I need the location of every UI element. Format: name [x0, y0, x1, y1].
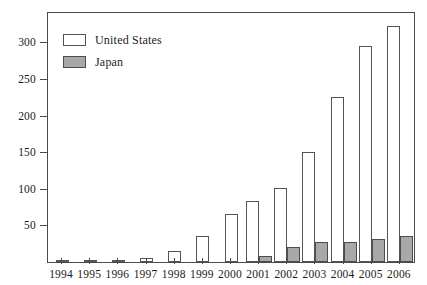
x-axis-tick-label: 2004 [331, 266, 355, 282]
x-axis-tick-mark [258, 258, 259, 264]
y-axis-tick-label: 50 [24, 217, 36, 233]
bar-united-states-2005 [359, 46, 372, 262]
bar-japan-2001 [259, 256, 272, 262]
x-axis-tick-label: 1994 [49, 266, 73, 282]
x-axis-tick-mark [286, 258, 287, 264]
x-axis-tick-mark [117, 258, 118, 264]
bar-japan-2003 [315, 242, 328, 262]
white-square-icon [63, 34, 86, 46]
y-axis-tick-mark [40, 42, 47, 43]
bar-japan-2002 [287, 247, 300, 262]
legend-item-label: United States [95, 33, 162, 47]
bar-united-states-1995 [84, 260, 97, 262]
legend-item-label: Japan [95, 55, 123, 69]
bar-united-states-2006 [387, 26, 400, 262]
x-axis-tick-label: 2005 [359, 266, 383, 282]
gray-square-icon [63, 56, 86, 68]
y-axis: 50100150200250300 [0, 12, 47, 263]
y-axis-tick-label: 100 [18, 181, 36, 197]
bar-japan-2004 [344, 242, 357, 262]
x-axis-tick-mark [230, 258, 231, 264]
bar-united-states-2002 [274, 188, 287, 262]
x-axis-tick-label: 2001 [246, 266, 270, 282]
bar-united-states-2003 [302, 152, 315, 262]
x-axis-tick-mark [371, 258, 372, 264]
y-axis-tick-mark [40, 79, 47, 80]
y-axis-tick-mark [40, 189, 47, 190]
x-axis-tick-mark [89, 258, 90, 264]
bar-united-states-1996 [112, 260, 125, 262]
y-axis-tick-label: 300 [18, 34, 36, 50]
y-axis-tick-label: 150 [18, 144, 36, 160]
x-axis-tick-mark [61, 258, 62, 264]
x-axis-tick-label: 1997 [134, 266, 158, 282]
y-axis-tick-mark [40, 116, 47, 117]
chart-legend: United StatesJapan [63, 31, 162, 75]
x-axis-tick-label: 2006 [387, 266, 411, 282]
bar-japan-2005 [372, 239, 385, 262]
x-axis-tick-mark [399, 258, 400, 264]
legend-item-japan: Japan [63, 53, 162, 70]
y-axis-tick-mark [40, 152, 47, 153]
y-axis-tick-label: 200 [18, 108, 36, 124]
y-axis-tick-label: 250 [18, 71, 36, 87]
bar-united-states-1994 [56, 260, 69, 262]
x-axis-tick-label: 1995 [77, 266, 101, 282]
x-axis-tick-label: 2002 [274, 266, 298, 282]
x-axis-tick-label: 1998 [162, 266, 186, 282]
bar-united-states-1997 [140, 258, 153, 262]
x-axis-tick-label: 1999 [190, 266, 214, 282]
bar-united-states-2000 [225, 214, 238, 262]
bar-united-states-1998 [168, 251, 181, 262]
x-axis-tick-mark [174, 258, 175, 264]
x-axis: 1994199519961997199819992000200120022003… [47, 264, 415, 285]
y-axis-tick-mark [40, 225, 47, 226]
legend-item-united-states: United States [63, 31, 162, 48]
bar-japan-2006 [400, 236, 413, 262]
x-axis-tick-label: 2000 [218, 266, 242, 282]
bar-united-states-2004 [331, 97, 344, 262]
x-axis-tick-mark [343, 258, 344, 264]
x-axis-tick-mark [202, 258, 203, 264]
x-axis-tick-label: 1996 [105, 266, 129, 282]
x-axis-tick-mark [146, 258, 147, 264]
bar-chart: 50100150200250300 United StatesJapan 199… [0, 0, 427, 285]
x-axis-tick-mark [314, 258, 315, 264]
bar-united-states-1999 [196, 236, 209, 262]
bar-united-states-2001 [246, 201, 259, 262]
x-axis-tick-label: 2003 [303, 266, 327, 282]
